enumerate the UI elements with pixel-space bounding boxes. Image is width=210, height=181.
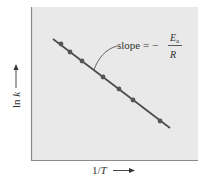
data-point bbox=[80, 59, 85, 64]
data-point bbox=[101, 75, 106, 80]
x-axis-label: 1/T bbox=[92, 164, 135, 176]
data-point bbox=[117, 87, 122, 92]
y-axis-label: ln k bbox=[10, 64, 22, 108]
slope-annotation: slope = − bbox=[117, 39, 158, 51]
slope-denominator: R bbox=[169, 49, 176, 60]
svg-text:1/T: 1/T bbox=[92, 164, 108, 176]
data-point bbox=[59, 42, 64, 47]
plot-area bbox=[31, 7, 198, 161]
arrhenius-plot: slope = − Ea R ln k 1/T bbox=[0, 0, 210, 181]
svg-text:ln k: ln k bbox=[10, 91, 22, 108]
data-point bbox=[68, 50, 73, 55]
data-point bbox=[131, 98, 136, 103]
data-point bbox=[158, 119, 163, 124]
